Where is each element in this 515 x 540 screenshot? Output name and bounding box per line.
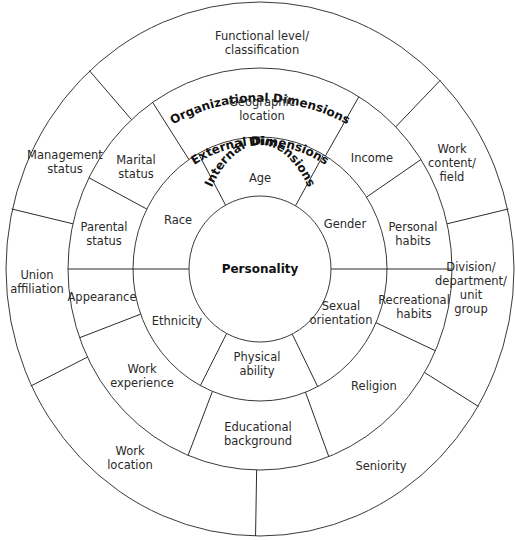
external-segment-label: Personalhabits [389,220,438,248]
external-segment-label: Maritalstatus [116,153,156,181]
segment-labels: AgeGenderSexualorientationPhysicalabilit… [10,29,507,473]
organizational-segment-label: Functional level/classification [215,29,309,57]
external-segment-label: Recreationalhabits [378,293,450,321]
external-segment-label: Income [351,151,393,165]
organizational-divider [12,209,73,224]
external-divider [80,314,141,338]
organizational-divider [89,71,131,120]
internal-segment-label: Physicalability [234,350,281,378]
external-segment-label: Workexperience [110,362,174,390]
organizational-segment-label: Seniority [355,459,406,473]
external-segment-label: Appearance [67,290,136,304]
external-divider [376,323,435,351]
external-segment-label: Educationalbackground [224,420,292,448]
external-divider [306,392,329,456]
external-divider [367,160,422,198]
external-segment-label: Religion [351,379,397,393]
organizational-divider [425,373,479,407]
internal-segment-label: Gender [324,217,367,231]
organizational-segment-label: Worklocation [107,444,153,472]
organizational-segment-label: Unionaffiliation [10,268,64,296]
internal-divider [200,333,226,385]
external-segment-label: Geographiclocation [229,95,295,123]
internal-segment-label: Age [249,171,271,185]
organizational-segment-label: Division/department/unitgroup [435,260,507,316]
internal-segment-label: Sexualorientation [310,299,373,327]
internal-segment-label: Ethnicity [152,314,203,328]
organizational-divider [31,357,88,386]
core-label: Personality [222,262,299,276]
internal-divider [292,334,317,387]
organizational-divider [396,80,441,127]
organizational-divider [256,470,257,536]
internal-segment-label: Race [164,213,192,227]
diversity-wheel: Personality Organizational Dimensions Ex… [0,0,515,540]
organizational-segment-label: Workcontent/field [428,142,476,184]
organizational-divider [447,209,508,224]
external-divider [89,178,147,209]
external-segment-label: Parentalstatus [80,220,127,248]
external-divider [188,391,212,455]
